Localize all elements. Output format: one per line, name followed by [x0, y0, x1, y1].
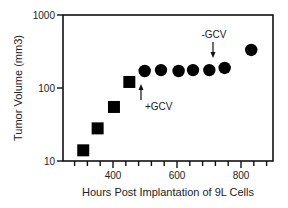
- square-marker: [77, 144, 89, 156]
- x-axis-title: Hours Post Implantation of 9L Cells: [82, 186, 255, 198]
- minus-gcv-arrow: [211, 42, 216, 58]
- minus-gcv-label: -GCV: [202, 29, 227, 40]
- y-axis-title: Tumor Volume (mm3): [12, 35, 24, 141]
- y-tick-label: 100: [38, 83, 55, 94]
- square-marker: [123, 76, 135, 88]
- circle-marker: [155, 64, 167, 76]
- circle-marker: [138, 65, 150, 77]
- plot-frame: [63, 15, 273, 161]
- y-axis: [57, 15, 63, 161]
- circle-marker: [172, 65, 184, 77]
- x-tick-label: 800: [233, 170, 250, 181]
- circle-marker: [203, 64, 215, 76]
- y-tick-label: 10: [44, 156, 56, 167]
- x-tick-label: 600: [169, 170, 186, 181]
- y-tick-label: 1000: [33, 10, 56, 21]
- circle-marker: [187, 64, 199, 76]
- x-tick-label: 400: [105, 170, 122, 181]
- tumor-volume-chart: 1000 100 10 400 600 800 Hours Post Impla…: [0, 0, 288, 208]
- circle-marker: [245, 44, 257, 56]
- square-marker: [92, 122, 104, 134]
- plus-gcv-arrow: [139, 84, 144, 100]
- square-marker: [108, 101, 120, 113]
- circle-marker: [218, 62, 230, 74]
- plus-gcv-label: +GCV: [145, 101, 173, 112]
- x-axis: [75, 161, 267, 168]
